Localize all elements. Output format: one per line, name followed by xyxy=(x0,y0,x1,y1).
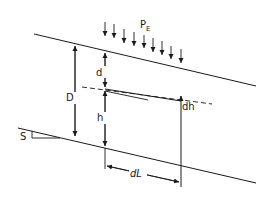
load-label: PE xyxy=(140,19,150,33)
slope-label: S xyxy=(20,131,26,142)
head-label: h xyxy=(97,112,103,123)
aquifer-diagram: PE D d h dh dL S xyxy=(0,0,268,199)
total-depth-label: D xyxy=(66,92,74,103)
length-label: dL xyxy=(130,168,142,179)
ground-surface-line xyxy=(34,34,256,86)
head-change-label: dh xyxy=(182,101,195,112)
depth-label: d xyxy=(96,67,102,78)
